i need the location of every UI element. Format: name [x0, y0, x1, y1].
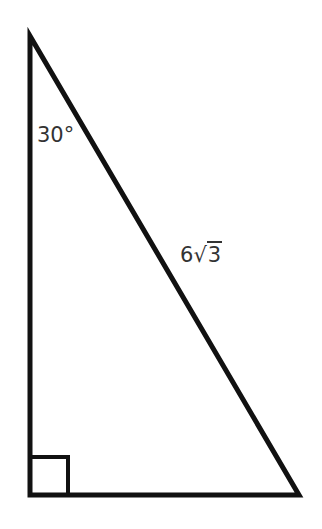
square-root: √3 [193, 245, 222, 266]
right-triangle-diagram [0, 0, 322, 529]
radicand: 3 [207, 241, 222, 267]
right-angle-marker [30, 457, 68, 495]
angle-label: 30° [37, 125, 74, 146]
radical-symbol: √ [193, 243, 206, 267]
hypotenuse-label: 6√3 [180, 245, 222, 266]
hypotenuse-coefficient: 6 [180, 243, 193, 267]
triangle-outline [30, 36, 299, 495]
